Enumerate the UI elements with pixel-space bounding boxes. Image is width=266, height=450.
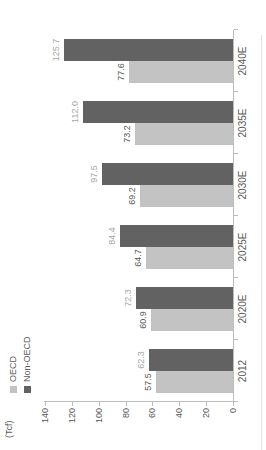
category-label: 2035E [237,92,248,154]
y-tick-mark [45,402,46,406]
y-tick-label: 100 [94,408,104,436]
y-tick-mark [233,402,234,406]
value-label-non-oecd-2025e: 84.4 [107,219,117,253]
bar-oecd-2020e [151,309,233,331]
y-tick-mark [126,402,127,406]
y-tick-label: 0 [228,408,238,436]
value-label-non-oecd-2040e: 125.7 [51,33,61,67]
chart-rotated-container: (Tcf) OECD Non-OECD 02040608010012014020… [0,0,266,450]
y-tick-label: 20 [201,408,211,436]
y-tick-label: 60 [147,408,157,436]
y-tick-label: 120 [67,408,77,436]
category-label: 2030E [237,154,248,216]
bar-oecd-2012 [156,371,233,393]
bar-non-oecd-2025e [120,225,233,247]
value-label-non-oecd-2030e: 97.5 [89,157,99,191]
y-tick-mark [179,402,180,406]
value-label-non-oecd-2012: 62.3 [136,343,146,377]
y-tick-label: 140 [40,408,50,436]
bar-oecd-2040e [129,61,233,83]
chart-bottom-border-line [261,35,262,450]
value-label-non-oecd-2020e: 72.3 [123,281,133,315]
category-label: 2020E [237,278,248,340]
category-label: 2025E [237,216,248,278]
category-label: 2040E [237,30,248,92]
bar-oecd-2025e [146,247,233,269]
y-tick-mark [206,402,207,406]
bar-non-oecd-2035e [83,101,233,123]
bar-oecd-2035e [135,123,233,145]
bar-non-oecd-2040e [64,39,233,61]
y-tick-label: 80 [121,408,131,436]
y-tick-mark [152,402,153,406]
bar-non-oecd-2020e [136,287,233,309]
bar-non-oecd-2030e [102,163,233,185]
x-axis-line [233,30,234,402]
y-tick-label: 40 [174,408,184,436]
bar-non-oecd-2012 [149,349,233,371]
category-label: 2012 [237,340,248,402]
y-tick-mark [99,402,100,406]
bar-chart: (Tcf) OECD Non-OECD 02040608010012014020… [0,0,266,450]
y-tick-mark [72,402,73,406]
plot-area: 020406080100120140201257.562.32020E60.97… [0,0,266,450]
value-label-non-oecd-2035e: 112.0 [70,95,80,129]
bar-oecd-2030e [140,185,233,207]
screenshot-root: (Tcf) OECD Non-OECD 02040608010012014020… [0,0,266,450]
